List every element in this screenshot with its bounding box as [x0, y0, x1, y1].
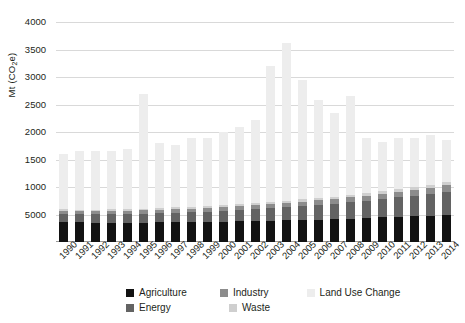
bar-segment-land-use-change: [203, 138, 212, 206]
x-axis-tick-cell: 2007: [327, 244, 343, 288]
bar-segment-land-use-change: [298, 80, 307, 200]
bar-segment-agriculture: [346, 219, 355, 242]
bar-column[interactable]: [167, 22, 183, 242]
bar-column[interactable]: [152, 22, 168, 242]
x-axis-tick-cell: 2011: [390, 244, 406, 288]
bar-column[interactable]: [390, 22, 406, 242]
bar-column[interactable]: [311, 22, 327, 242]
bar-segment-land-use-change: [59, 154, 68, 209]
bar-column[interactable]: [438, 22, 454, 242]
bar-column[interactable]: [56, 22, 72, 242]
x-axis-tick-cell: 1995: [136, 244, 152, 288]
bar-segment-energy: [410, 196, 419, 216]
bar-segment-energy: [187, 212, 196, 222]
bar-column[interactable]: [295, 22, 311, 242]
bar-segment-energy: [426, 194, 435, 215]
bar-segment-agriculture: [330, 219, 339, 242]
bar-column[interactable]: [279, 22, 295, 242]
legend-label-land-use-change: Land Use Change: [320, 287, 401, 298]
bar-column[interactable]: [199, 22, 215, 242]
bar-stack: [139, 94, 148, 242]
bar-column[interactable]: [215, 22, 231, 242]
bar-column[interactable]: [120, 22, 136, 242]
x-axis-tick-cell: 1994: [120, 244, 136, 288]
bar-segment-land-use-change: [426, 135, 435, 185]
bar-segment-agriculture: [362, 218, 371, 242]
bar-column[interactable]: [374, 22, 390, 242]
bar-column[interactable]: [422, 22, 438, 242]
bar-stack: [330, 113, 339, 242]
legend-item-waste[interactable]: Waste: [229, 302, 324, 313]
bar-segment-agriculture: [171, 222, 180, 242]
legend-label-waste: Waste: [242, 302, 270, 313]
bar-stack: [171, 145, 180, 242]
legend-item-energy[interactable]: Energy: [126, 302, 229, 313]
bar-segment-land-use-change: [139, 94, 148, 209]
bar-segment-land-use-change: [410, 138, 419, 188]
bar-segment-energy: [298, 206, 307, 220]
y-axis-tick-label: 2500: [25, 100, 46, 110]
legend-swatch-agriculture: [126, 289, 134, 297]
bar-segment-energy: [266, 208, 275, 221]
bar-stack: [378, 142, 387, 242]
x-axis-tick-cell: 2008: [343, 244, 359, 288]
y-axis-tick-label: 2000: [25, 127, 46, 137]
bar-segment-land-use-change: [266, 66, 275, 201]
x-axis-tick-cell: 1991: [72, 244, 88, 288]
x-axis-tick-cell: 2014: [438, 244, 454, 288]
bar-segment-land-use-change: [251, 120, 260, 203]
x-axis-tick-cell: 1996: [152, 244, 168, 288]
bar-segment-land-use-change: [330, 113, 339, 197]
bar-segment-agriculture: [75, 222, 84, 242]
legend-swatch-energy: [126, 304, 134, 312]
x-axis-tick-cell: 1993: [104, 244, 120, 288]
bar-segment-land-use-change: [75, 151, 84, 209]
legend-item-industry[interactable]: Industry: [220, 287, 307, 298]
bar-segment-agriculture: [235, 221, 244, 242]
legend-item-agriculture[interactable]: Agriculture: [126, 287, 220, 298]
bar-column[interactable]: [263, 22, 279, 242]
x-axis-tick-labels: 1990199119921993199419951996199719981999…: [56, 244, 454, 288]
legend-item-land-use-change[interactable]: Land Use Change: [307, 287, 416, 298]
bar-segment-energy: [362, 201, 371, 218]
chart-legend: Agriculture Industry Land Use Change Ene…: [126, 285, 416, 315]
bar-column[interactable]: [72, 22, 88, 242]
x-axis-tick-cell: 2004: [279, 244, 295, 288]
bar-stack: [155, 143, 164, 242]
bar-column[interactable]: [104, 22, 120, 242]
x-axis-tick-cell: 1999: [199, 244, 215, 288]
bar-column[interactable]: [183, 22, 199, 242]
bar-segment-agriculture: [266, 221, 275, 242]
x-axis-tick-cell: 1990: [56, 244, 72, 288]
legend-swatch-land-use-change: [307, 289, 315, 297]
bar-series-group: [56, 22, 454, 242]
bar-stack: [187, 138, 196, 242]
bar-stack: [59, 154, 68, 242]
bar-column[interactable]: [88, 22, 104, 242]
bar-column[interactable]: [231, 22, 247, 242]
bar-segment-energy: [219, 211, 228, 222]
bar-stack: [426, 135, 435, 242]
plot-area: [56, 22, 454, 242]
bar-column[interactable]: [327, 22, 343, 242]
bar-segment-land-use-change: [362, 138, 371, 194]
x-axis-tick-cell: 2003: [263, 244, 279, 288]
bar-column[interactable]: [359, 22, 375, 242]
x-axis-tick-cell: 2002: [247, 244, 263, 288]
legend-label-industry: Industry: [233, 287, 269, 298]
bar-stack: [123, 149, 132, 242]
bar-segment-energy: [442, 192, 451, 215]
bar-segment-land-use-change: [282, 43, 291, 201]
x-axis-tick-cell: 2009: [359, 244, 375, 288]
bar-column[interactable]: [406, 22, 422, 242]
bar-stack: [282, 43, 291, 242]
bar-column[interactable]: [343, 22, 359, 242]
bar-segment-agriculture: [59, 222, 68, 242]
bar-segment-agriculture: [251, 221, 260, 242]
x-axis-tick-cell: 2006: [311, 244, 327, 288]
bar-segment-agriculture: [282, 220, 291, 242]
bar-column[interactable]: [136, 22, 152, 242]
bar-stack: [394, 138, 403, 242]
x-axis-tick-cell: 2005: [295, 244, 311, 288]
bar-column[interactable]: [247, 22, 263, 242]
